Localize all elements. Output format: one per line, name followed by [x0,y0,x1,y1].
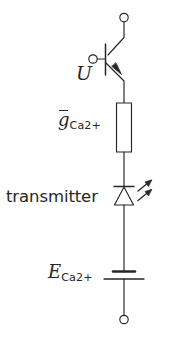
resistor-body [117,103,132,152]
emitter-arrowhead [112,63,122,75]
collector-wire [108,22,124,55]
voltage-label: U [76,64,92,83]
conductance-label: gCa2+ [58,111,101,131]
transmitter-label: transmitter [6,189,98,206]
led-triangle [115,187,134,205]
reversal-potential-label: ECa2+ [48,263,93,283]
circuit-schematic [0,0,172,337]
voltage-label-text: U [76,62,92,84]
top-terminal-circle [120,13,128,21]
conductance-label-overbar-group: g [58,111,70,129]
overbar-mark [59,110,69,111]
schematic-canvas: U gCa2+ transmitter ECa2+ [0,0,172,337]
led-light-rays [138,180,152,201]
transmitter-label-text: transmitter [6,187,98,206]
conductance-label-base: g [58,109,70,130]
reversal-potential-label-base: E [48,261,61,282]
conductance-label-subscript: Ca2+ [70,119,101,132]
bottom-terminal-circle [120,315,128,323]
reversal-potential-label-subscript: Ca2+ [61,271,92,284]
